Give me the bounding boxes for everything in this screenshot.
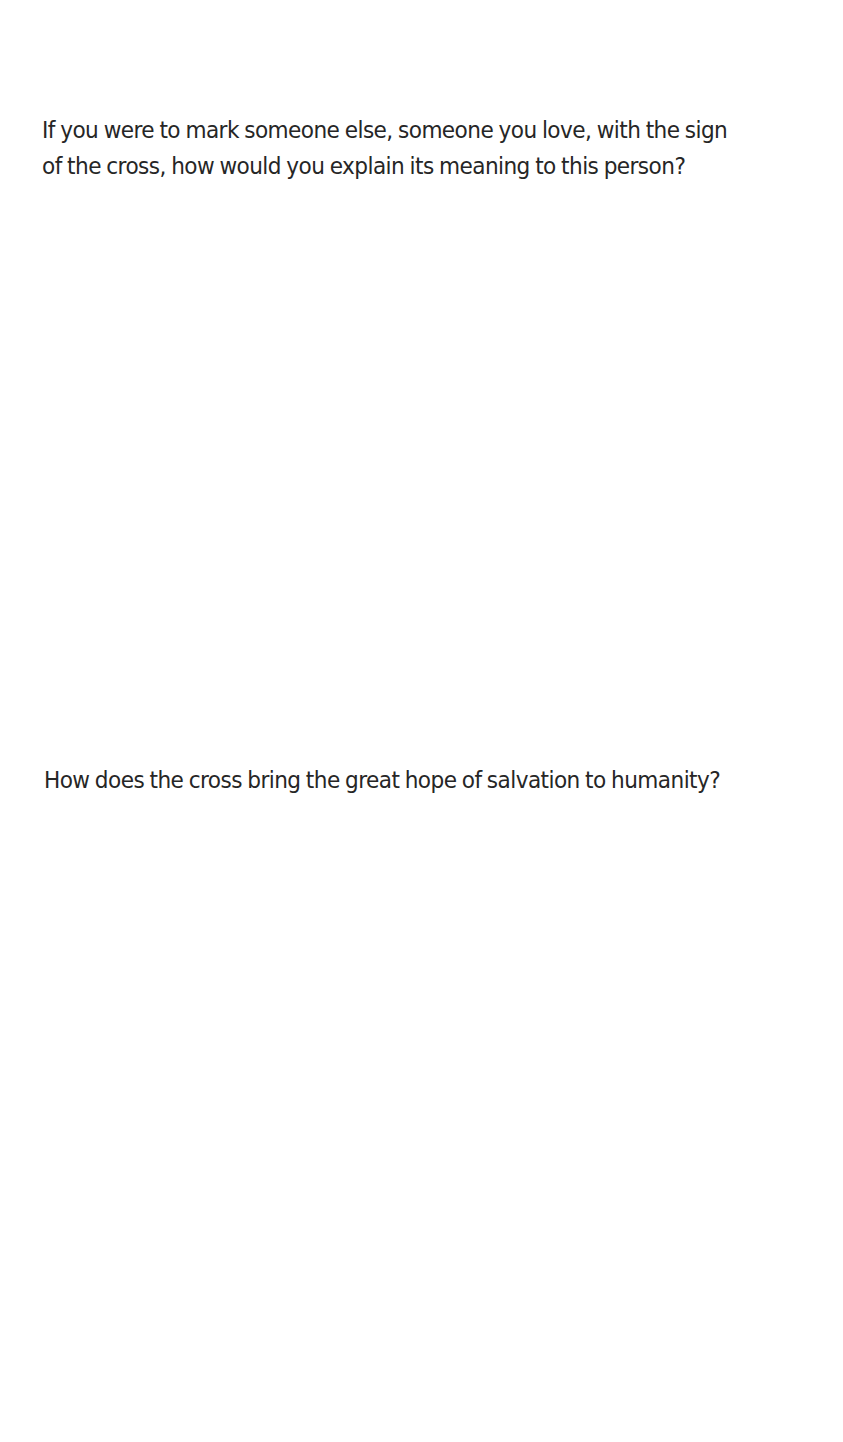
question-2-line-1: How does the cross bring the great hope … <box>44 762 720 798</box>
question-1-line-1: If you were to mark someone else, someon… <box>42 112 727 148</box>
question-1: If you were to mark someone else, someon… <box>42 112 727 184</box>
question-1-line-2: of the cross, how would you explain its … <box>42 148 727 184</box>
answer-space-1 <box>42 200 802 740</box>
answer-space-2 <box>42 810 802 1400</box>
question-2: How does the cross bring the great hope … <box>44 762 720 798</box>
